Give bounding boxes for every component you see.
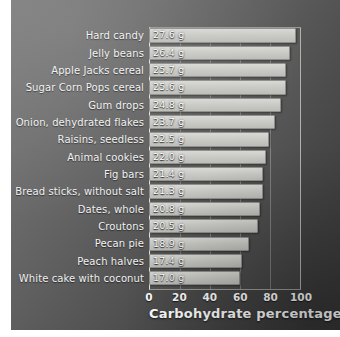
- bar-area: 18.9 g: [149, 235, 301, 252]
- bar-area: 21.3 g: [149, 183, 301, 200]
- bar-track: 17.4 g: [149, 254, 301, 268]
- bar-area: 25.6 g: [149, 79, 301, 96]
- bar-value-label: 25.7 g: [153, 64, 184, 76]
- screenshot-root: Hard candy27.6 gJelly beans26.4 gApple J…: [0, 0, 340, 337]
- x-tick-label: 100: [290, 291, 312, 304]
- bar-track: 22.0 g: [149, 150, 301, 164]
- bar-row: Raisins, seedless22.5 g: [11, 131, 340, 148]
- bar-track: 24.8 g: [149, 98, 301, 112]
- category-label: Gum drops: [11, 100, 149, 111]
- bar-area: 23.7 g: [149, 114, 301, 131]
- bar-track: 26.4 g: [149, 46, 301, 60]
- category-label: Croutons: [11, 221, 149, 232]
- bar-area: 17.4 g: [149, 252, 301, 269]
- x-tick-label: 40: [202, 291, 217, 304]
- category-label: Peach halves: [11, 256, 149, 267]
- bar-rows: Hard candy27.6 gJelly beans26.4 gApple J…: [11, 27, 340, 287]
- bar-value-label: 21.3 g: [153, 185, 184, 197]
- category-label: White cake with coconut: [11, 273, 149, 284]
- bar-row: Animal cookies22.0 g: [11, 148, 340, 165]
- bar-value-label: 22.0 g: [153, 151, 184, 163]
- category-label: Animal cookies: [11, 152, 149, 163]
- bar-area: 27.6 g: [149, 27, 301, 44]
- carbohydrate-bar-chart: Hard candy27.6 gJelly beans26.4 gApple J…: [11, 0, 340, 330]
- bar-row: Bread sticks, without salt21.3 g: [11, 183, 340, 200]
- bar-row: Hard candy27.6 g: [11, 27, 340, 44]
- bar-track: 25.7 g: [149, 63, 301, 77]
- x-tick-label: 60: [233, 291, 248, 304]
- x-tick-label: 80: [263, 291, 278, 304]
- category-label: Hard candy: [11, 30, 149, 41]
- bar-area: 21.4 g: [149, 166, 301, 183]
- category-label: Raisins, seedless: [11, 134, 149, 145]
- bar-track: 21.3 g: [149, 184, 301, 198]
- bar-value-label: 17.0 g: [153, 272, 184, 284]
- category-label: Pecan pie: [11, 238, 149, 249]
- category-label: Fig bars: [11, 169, 149, 180]
- bar-track: 27.6 g: [149, 28, 301, 42]
- bar-value-label: 25.6 g: [153, 81, 184, 93]
- bar-area: 20.5 g: [149, 218, 301, 235]
- bar-track: 20.8 g: [149, 202, 301, 216]
- bar-area: 25.7 g: [149, 62, 301, 79]
- bar-area: 20.8 g: [149, 200, 301, 217]
- bar-value-label: 22.5 g: [153, 133, 184, 145]
- bar-value-label: 20.5 g: [153, 220, 184, 232]
- bar-track: 21.4 g: [149, 167, 301, 181]
- slide-background: Hard candy27.6 gJelly beans26.4 gApple J…: [11, 0, 340, 330]
- bar-track: 17.0 g: [149, 271, 301, 285]
- bar-row: Dates, whole20.8 g: [11, 200, 340, 217]
- bar-row: Fig bars21.4 g: [11, 166, 340, 183]
- bar-value-label: 17.4 g: [153, 255, 184, 267]
- bar-track: 20.5 g: [149, 219, 301, 233]
- x-axis-title: Carbohydrate percentage: [149, 306, 324, 322]
- bar-row: Gum drops24.8 g: [11, 96, 340, 113]
- bar-value-label: 24.8 g: [153, 99, 184, 111]
- bar-row: Sugar Corn Pops cereal25.6 g: [11, 79, 340, 96]
- bar-track: 22.5 g: [149, 132, 301, 146]
- category-label: Dates, whole: [11, 204, 149, 215]
- bar-value-label: 26.4 g: [153, 47, 184, 59]
- category-label: Sugar Corn Pops cereal: [11, 82, 149, 93]
- bar-value-label: 18.9 g: [153, 238, 184, 250]
- bar-row: Apple Jacks cereal25.7 g: [11, 62, 340, 79]
- x-axis-ticks: 020406080100: [149, 291, 301, 305]
- category-label: Jelly beans: [11, 48, 149, 59]
- bar-area: 17.0 g: [149, 270, 301, 287]
- bar-row: Croutons20.5 g: [11, 218, 340, 235]
- bar-area: 22.0 g: [149, 148, 301, 165]
- bar-row: Peach halves17.4 g: [11, 252, 340, 269]
- bar-track: 18.9 g: [149, 237, 301, 251]
- bar-value-label: 20.8 g: [153, 203, 184, 215]
- bar-row: Pecan pie18.9 g: [11, 235, 340, 252]
- bar-value-label: 23.7 g: [153, 116, 184, 128]
- bar-area: 24.8 g: [149, 96, 301, 113]
- bar-track: 23.7 g: [149, 115, 301, 129]
- bar-area: 26.4 g: [149, 44, 301, 61]
- category-label: Onion, dehydrated flakes: [11, 117, 149, 128]
- bar-track: 25.6 g: [149, 80, 301, 94]
- bar-row: White cake with coconut17.0 g: [11, 270, 340, 287]
- category-label: Bread sticks, without salt: [11, 186, 149, 197]
- x-tick-label: 0: [145, 291, 152, 304]
- bar-value-label: 27.6 g: [153, 29, 184, 41]
- bar-value-label: 21.4 g: [153, 168, 184, 180]
- bar-row: Onion, dehydrated flakes23.7 g: [11, 114, 340, 131]
- bar-row: Jelly beans26.4 g: [11, 44, 340, 61]
- bar-area: 22.5 g: [149, 131, 301, 148]
- x-tick-label: 20: [172, 291, 187, 304]
- category-label: Apple Jacks cereal: [11, 65, 149, 76]
